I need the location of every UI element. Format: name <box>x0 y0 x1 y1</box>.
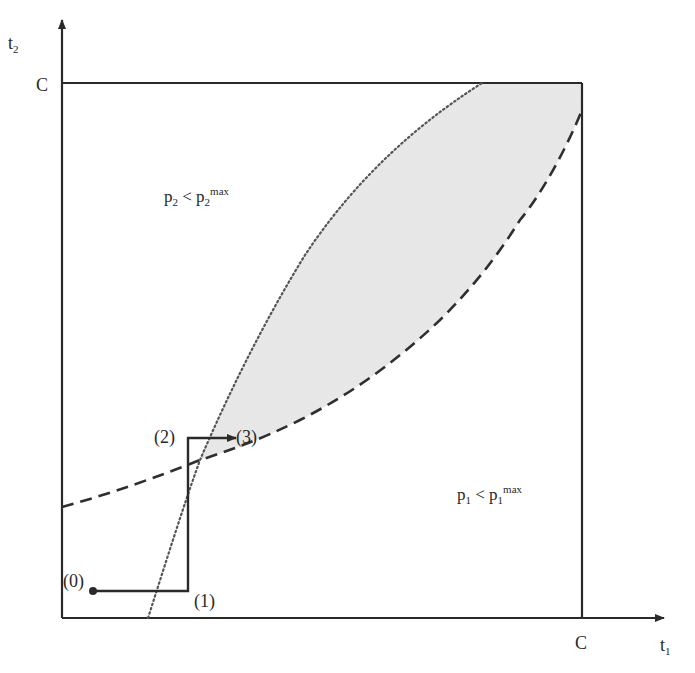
point-label-1: (1) <box>194 592 215 610</box>
point-label-2: (2) <box>154 428 175 446</box>
p2max-base: p <box>196 187 205 206</box>
p1-base: p <box>457 485 466 504</box>
x-axis-tick-c: C <box>575 634 587 652</box>
step-path <box>93 438 236 591</box>
p1-relation: < <box>471 485 489 504</box>
p2-relation: < <box>178 187 196 206</box>
p1max-base: p <box>489 485 498 504</box>
feasible-region <box>200 83 582 460</box>
p1max-sup: max <box>503 483 522 495</box>
point-label-0: (0) <box>63 572 84 590</box>
y-axis-tick-c: C <box>36 76 48 94</box>
point-label-3: (3) <box>236 428 257 446</box>
diagram-canvas <box>0 0 695 673</box>
y-axis-label-sub: 2 <box>13 43 19 55</box>
y-axis-label: t2 <box>8 34 19 55</box>
x-axis-label: t1 <box>660 636 671 657</box>
p2-base: p <box>164 187 173 206</box>
p2max-sup: max <box>210 185 229 197</box>
region-label-p1: p1 < p1max <box>457 484 522 506</box>
p2max-sub: 2 <box>205 196 211 208</box>
p1max-sub: 1 <box>498 494 504 506</box>
x-axis-label-sub: 1 <box>665 645 671 657</box>
region-label-p2: p2 < p2max <box>164 186 229 208</box>
